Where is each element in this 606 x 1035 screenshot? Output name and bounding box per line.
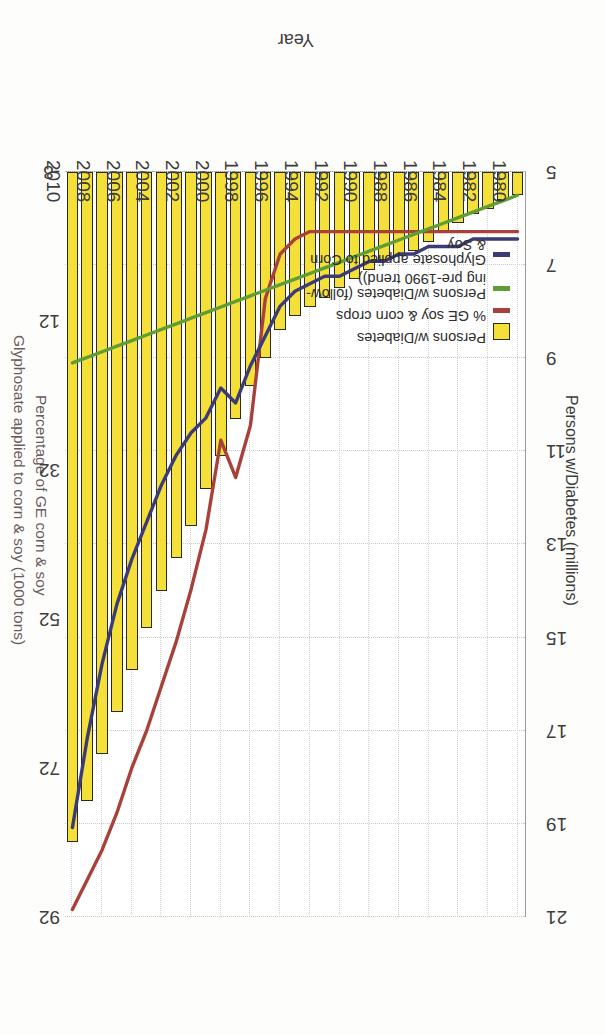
y-axis-tick-label: 9 — [546, 349, 592, 368]
y-axis-tick-label: 7 — [546, 256, 592, 275]
x-axis-tick-label: 2004 — [131, 160, 153, 202]
x-axis-tick-label: 2010 — [42, 160, 64, 202]
y-axis-tick-label: 21 — [546, 908, 592, 927]
legend-line-icon — [493, 308, 510, 313]
y-axis-tick-label: 5 — [546, 163, 592, 182]
secondary-axis-title-ge-percent: Percentage of GE corn & soy — [32, 395, 50, 596]
legend-box-icon — [493, 323, 510, 340]
x-axis-title: Year — [278, 29, 314, 50]
legend-line-icon — [493, 286, 510, 291]
x-axis-tick-label: 2006 — [102, 160, 124, 202]
y-axis-title: Persons w/Diabetes (millions) — [562, 395, 580, 606]
x-axis-tick-label: 2000 — [191, 160, 213, 202]
y-axis-tick-label: 15 — [546, 629, 592, 648]
x-axis-tick-label: 2002 — [161, 160, 183, 202]
secondary-axis-tick-label: 32 — [10, 461, 60, 480]
legend-item-label: Persons w/Diabetes (follow- ing pre-1990… — [306, 271, 486, 301]
secondary-axis-title-glyphosate: Glyphosate applied to corn & soy (1000 t… — [10, 335, 28, 645]
y-axis-tick-label: 17 — [546, 722, 592, 741]
x-axis-tick-label: 2008 — [72, 160, 94, 202]
x-axis-tick-label: 1998 — [220, 160, 242, 202]
legend-item-label: Persons w/Diabetes — [357, 330, 486, 345]
secondary-axis-tick-label: 92 — [10, 908, 60, 927]
line-series — [72, 239, 517, 828]
legend-item-label: Glyphosate applied to Corn & Soy — [310, 237, 486, 267]
y-axis-tick-label: 19 — [546, 815, 592, 834]
x-axis-tick-label: 1988 — [369, 160, 391, 202]
x-axis-tick-label: 1984 — [428, 160, 450, 202]
x-axis-tick-label: 1990 — [339, 160, 361, 202]
combination-chart: Persons w/Diabetes (millions) Glyphosate… — [0, 0, 606, 1035]
secondary-axis-tick-label: 52 — [10, 610, 60, 629]
legend-item-label: % GE soy & corn crops — [336, 308, 486, 323]
x-axis-tick-label: 1994 — [280, 160, 302, 202]
y-axis-tick-label: 11 — [546, 442, 592, 461]
x-axis-tick-label: 1992 — [310, 160, 332, 202]
x-axis-tick-label: 1996 — [250, 160, 272, 202]
x-axis-tick-label: 1982 — [458, 160, 480, 202]
x-axis-tick-label: 1980 — [488, 160, 510, 202]
legend-line-icon — [493, 252, 510, 257]
secondary-axis-tick-label: 12 — [10, 312, 60, 331]
chart-canvas: Persons w/Diabetes (millions) Glyphosate… — [0, 0, 606, 1035]
x-axis-tick-label: 1986 — [399, 160, 421, 202]
secondary-axis-tick-label: 72 — [10, 759, 60, 778]
y-axis-tick-label: 13 — [546, 536, 592, 555]
